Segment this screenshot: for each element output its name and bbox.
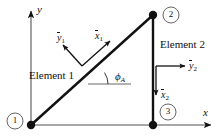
element-1-label: Element 1 [29, 70, 74, 81]
local-x1-axis-arrow [82, 41, 110, 66]
node-label-3: 3 [162, 107, 174, 116]
angle-subscript: A [121, 76, 125, 84]
local-x2-symbol: x [161, 90, 165, 100]
node-dot-1 [27, 121, 35, 129]
local-y1-axis-arrow [63, 45, 82, 66]
local-x1-subscript: 1 [99, 35, 103, 43]
local-y1-axis-label: y1 [57, 33, 65, 45]
node-dot-2 [149, 11, 157, 19]
node-label-1: 1 [9, 116, 21, 125]
local-y1-symbol: y [57, 33, 61, 43]
node-dot-3 [149, 121, 157, 129]
angle-arc [105, 73, 109, 84]
local-x2-subscript: 2 [165, 94, 169, 102]
local-y2-axis-label: y2 [189, 61, 197, 73]
local-x1-symbol: x [95, 31, 99, 41]
global-y-axis-label: y [37, 4, 42, 15]
node-label-2: 2 [165, 10, 177, 19]
local-y2-subscript: 2 [193, 65, 197, 73]
element-2-label: Element 2 [160, 39, 205, 50]
local-x1-axis-label: x1 [95, 31, 103, 43]
frame-element-diagram: 1 2 3 y x Element 1 Element 2 y1 x1 y2 x… [0, 0, 222, 139]
local-x2-axis-label: x2 [161, 90, 169, 102]
local-y2-symbol: y [189, 61, 193, 71]
global-x-axis-label: x [203, 107, 208, 118]
local-y1-subscript: 1 [61, 37, 65, 45]
angle-phi-a-label: ϕA [115, 71, 125, 84]
